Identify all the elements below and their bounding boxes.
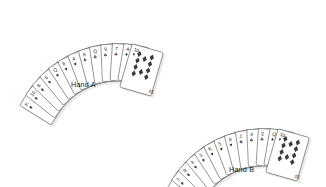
- figure-canvas: K1086Q84AQ97A1010 Hand A AJ943K5AJ42Q101…: [0, 0, 326, 187]
- hand-b-label: Hand B: [229, 165, 254, 174]
- svg-text:4: 4: [250, 132, 253, 137]
- hand-b-fan: AJ943K5AJ42Q1010: [0, 0, 326, 187]
- hand-b-group: AJ943K5AJ42Q1010: [0, 0, 326, 187]
